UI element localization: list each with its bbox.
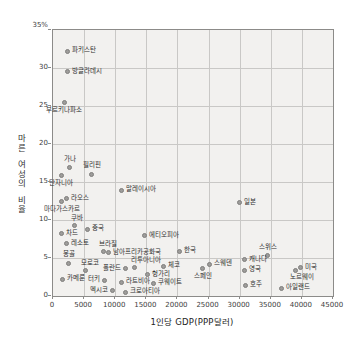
data-point-label: 영국 xyxy=(249,266,261,274)
x-tick-label: 45000 xyxy=(310,301,354,310)
data-point xyxy=(207,262,212,267)
data-point xyxy=(177,249,182,254)
data-point-label: 스웨덴 xyxy=(214,260,232,268)
data-point xyxy=(237,200,242,205)
x-tickmark xyxy=(332,296,333,299)
data-point xyxy=(59,199,64,204)
data-point-label: 아일랜드 xyxy=(286,284,310,292)
gridline-horizontal xyxy=(53,220,333,221)
data-point xyxy=(89,172,94,177)
x-tickmark xyxy=(301,296,302,299)
data-point xyxy=(123,266,128,271)
y-axis-title-char: 율 xyxy=(13,205,31,215)
y-tick-label: 5 xyxy=(20,253,48,262)
gridline-vertical xyxy=(177,30,178,296)
data-point-label: 한국 xyxy=(184,247,196,255)
data-point xyxy=(66,261,71,266)
data-point-label: 크로아티아 xyxy=(130,288,160,296)
data-point-label: 에티오피아 xyxy=(149,232,179,240)
y-tickmark xyxy=(48,257,51,258)
data-point-label: 라오스 xyxy=(71,195,89,203)
x-tickmark xyxy=(176,296,177,299)
data-point-label: 레소토 xyxy=(71,240,89,248)
x-tickmark xyxy=(208,296,209,299)
data-point-label: 일본 xyxy=(244,199,256,207)
y-tickmark xyxy=(48,181,51,182)
data-point xyxy=(67,165,72,170)
data-point-label: 체코 xyxy=(168,262,180,270)
data-point xyxy=(85,227,90,232)
y-tickmark xyxy=(48,219,51,220)
data-point-label: 카메룬 xyxy=(67,275,85,283)
data-point-label: 모로코 xyxy=(81,260,99,268)
data-point-label: 호주 xyxy=(250,281,262,289)
y-tickmark xyxy=(48,67,51,68)
data-point xyxy=(242,268,247,273)
data-point-label: 중국 xyxy=(92,225,104,233)
scatter-chart: 마른여성의비율 파키스탄방글라데시부르키나파소가나필리핀탄자니아말레이시아라오스… xyxy=(0,0,360,338)
data-point xyxy=(200,266,205,271)
data-point-label: 라트비아 xyxy=(126,278,150,286)
gridline-horizontal xyxy=(53,106,333,107)
y-tick-label: 0 xyxy=(20,291,48,300)
data-point xyxy=(279,286,284,291)
y-tick-label: 10 xyxy=(20,215,48,224)
gridline-vertical xyxy=(271,30,272,296)
x-tickmark xyxy=(52,296,53,299)
y-tick-label: 35% xyxy=(20,21,48,30)
data-point-label: 말레이시아 xyxy=(126,186,156,194)
data-point xyxy=(59,173,64,178)
data-point xyxy=(72,223,77,228)
data-point xyxy=(106,250,111,255)
data-point xyxy=(83,268,88,273)
data-point xyxy=(65,49,70,54)
data-point-label: 미국 xyxy=(305,264,317,272)
data-point-label: 몽골 xyxy=(63,251,75,259)
x-tickmark xyxy=(270,296,271,299)
data-point xyxy=(65,69,70,74)
data-point-label: 리투아니아 xyxy=(131,257,161,265)
data-point-label: 터키 xyxy=(88,276,100,284)
data-point xyxy=(242,257,247,262)
y-tickmark xyxy=(48,105,51,106)
y-tick-label: 20 xyxy=(20,139,48,148)
data-point-label: 스위스 xyxy=(259,244,277,252)
data-point-label: 차드 xyxy=(66,230,78,238)
data-point xyxy=(119,188,124,193)
gridline-horizontal xyxy=(53,144,333,145)
y-tick-label: 15 xyxy=(20,177,48,186)
data-point-label: 방글라데시 xyxy=(72,68,102,76)
gridline-vertical xyxy=(240,30,241,296)
y-tickmark xyxy=(48,295,51,296)
data-point-label: 노르웨이 xyxy=(290,274,314,282)
data-point xyxy=(161,264,166,269)
data-point-label: 부르키나파소 xyxy=(46,107,82,115)
y-tickmark xyxy=(48,143,51,144)
data-point-label: 가나 xyxy=(64,156,76,164)
data-point-label: 쿠바 xyxy=(71,215,83,223)
data-point xyxy=(59,231,64,236)
x-axis-title: 1인당 GDP(PPP달러) xyxy=(52,315,332,327)
gridline-horizontal xyxy=(53,182,333,183)
x-tickmark xyxy=(239,296,240,299)
data-point xyxy=(123,290,128,295)
data-point xyxy=(60,277,65,282)
data-point xyxy=(64,241,69,246)
data-point xyxy=(243,283,248,288)
data-point xyxy=(62,100,67,105)
data-point xyxy=(110,288,115,293)
y-tickmark xyxy=(48,29,51,30)
data-point-label: 캐나다 xyxy=(249,256,267,264)
data-point xyxy=(119,280,124,285)
data-point-label: 마다가스카르 xyxy=(44,206,80,214)
plot-area: 파키스탄방글라데시부르키나파소가나필리핀탄자니아말레이시아라오스마다가스카르일본… xyxy=(52,29,334,297)
data-point-label: 스페인 xyxy=(194,273,212,281)
data-point xyxy=(64,196,69,201)
gridline-vertical xyxy=(302,30,303,296)
data-point-label: 멕시코 xyxy=(90,287,108,295)
data-point-label: 파키스탄 xyxy=(72,47,96,55)
y-tick-label: 25 xyxy=(20,101,48,110)
data-point xyxy=(102,278,107,283)
data-point xyxy=(151,281,156,286)
data-point-label: 필리핀 xyxy=(83,162,101,170)
